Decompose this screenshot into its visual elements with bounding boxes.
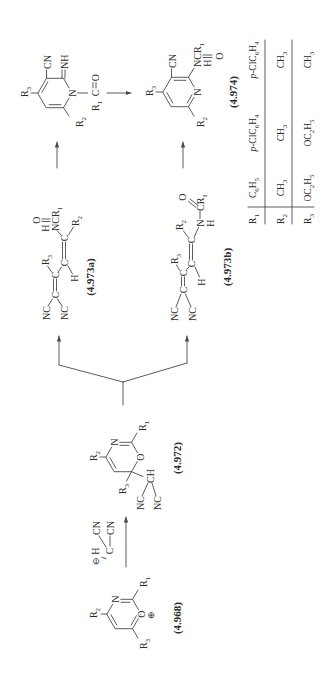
reaction-scheme: N O ⊕ R2 R1 R3 (4.968) ⊖ H C CN CN N O R… [0,0,331,685]
substituent-r2: R2 [88,450,102,461]
positive-charge-icon: ⊕ [146,611,156,619]
substituent-r1: R1 [90,100,104,111]
substituent-r1: R1 [137,420,151,431]
bond-r2 [64,108,70,116]
table-cell: p-ClC6H4 [248,114,261,153]
cyano-group: CN [42,55,53,69]
cyano-group: CN [91,521,102,535]
atom-c: C [104,547,115,554]
atom-n: N [67,89,78,96]
atom-c: C [178,286,189,293]
substituent-r3: R3 [169,253,183,264]
atom-n: N [195,219,206,226]
substituent-r2: R2 [88,607,102,618]
cyano-group: CN [105,521,116,535]
table-cell: CH3 [276,124,289,141]
compound-label: (4.974) [227,76,240,108]
table-cell: C6H5 [248,177,261,198]
substituent-r3: R3 [40,254,54,265]
cyano-group: NC [135,496,146,510]
atom-o: O [214,52,225,59]
bond [176,294,181,307]
substituent-table: R1 C6H5 p-ClC6H4 p-ClC6H4 R2 CH3 CH3 CH3… [248,40,316,224]
negative-charge-icon: ⊖ [91,557,101,565]
atom-c: C [59,234,70,241]
acyl-group: CR1 [195,194,209,211]
atom-h: H [69,274,80,281]
compound-label: (4.968) [171,602,184,634]
intermediate-acyl-iminopyridine: R3 CN NH R2 N R1 C O [19,55,104,128]
bond-r2 [189,107,195,116]
double-bond-inner [42,82,48,92]
atom-c: C [59,259,70,266]
atom-o: O [31,216,42,223]
atom-c: C [90,89,101,96]
atom-n: N [109,438,120,445]
compound-label: (4.972) [171,442,184,474]
bond-n [195,228,199,237]
cyano-group: NC [187,307,198,321]
branch-line [123,363,187,382]
substituent-r2: R2 [70,215,84,226]
double-bond-inner [111,615,117,625]
atom-o: O [136,610,147,617]
bond-h [68,266,73,274]
row-label-r1: R1 [248,214,261,224]
bond [48,299,53,306]
imine-nh: NH [59,55,70,69]
bond-amide-n [189,68,195,77]
compound-label: (4.973a) [84,258,97,296]
substituent-r2: R2 [195,116,209,127]
substituent-r2: R2 [74,116,88,127]
row-label-r2: R2 [276,214,289,224]
atom-h: H [205,219,216,226]
atom-c: C [186,236,197,243]
atom-c: C [186,260,197,267]
double-bond-inner [110,458,116,468]
bond-r2 [69,227,74,235]
reagent-malononitrile-anion: ⊖ H C CN CN [90,521,116,565]
atom-o: O [135,453,146,460]
compound-4973a: NC NC C C R3 C H C R2 NCR1 H O (4.973a) [31,206,97,320]
branch-line [59,365,123,382]
substituent-r3: R3 [19,86,33,97]
atom-c: C [178,269,189,276]
atom-h: H [40,224,51,231]
cyano-group: CN [167,54,178,68]
atom-n: N [110,595,121,602]
atom-o: O [90,74,101,81]
table-cell: CH3 [276,51,289,68]
bond-r3 [127,472,132,481]
bond-ch [132,472,144,477]
substituent-r3: R3 [117,483,131,494]
atom-h: H [90,547,101,554]
substituent-r3: R3 [138,638,152,649]
atom-c: C [50,271,61,278]
compound-4972: N O R2 R1 R3 CH NC NC (4.972) [88,420,184,510]
table-cell: OC2H5 [303,119,316,147]
compound-4974: R3 CN NCR1 H O R2 N (4.974) [144,42,241,127]
table-cell: p-ClC6H4 [248,41,261,80]
bond-r3 [133,629,139,638]
atom-n: N [192,88,203,95]
double-bond-inner [167,93,173,103]
bond-r1 [132,433,138,442]
compound-4973b: NC NC C C R3 C H C R2 N H CR1 O (4.973b) [169,193,235,321]
table-cell: CH3 [276,179,289,196]
bond-h-c [102,558,106,559]
table-cell: CH3 [303,51,316,68]
cyano-group: NC [169,307,180,321]
substituent-r1: R1 [138,576,152,587]
substituent-r3: R3 [144,85,158,96]
bond [58,299,63,306]
compound-4968: N O ⊕ R2 R1 R3 (4.968) [88,576,184,649]
bond-nc [142,483,148,496]
cyano-group: NC [152,496,163,510]
bond-h [195,267,200,277]
page: N O ⊕ R2 R1 R3 (4.968) ⊖ H C CN CN N O R… [0,0,331,685]
cyano-group: NC [41,306,52,320]
bond-nc [152,483,156,496]
row-label-r3: R3 [303,214,316,224]
branch-arrows [59,336,187,405]
bond-r1 [133,590,139,599]
